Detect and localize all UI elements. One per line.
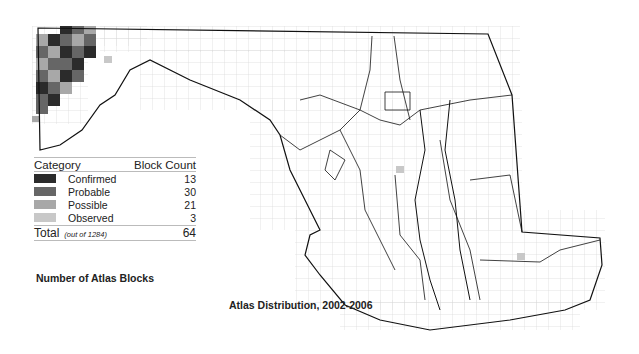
map-title: Atlas Distribution, 2002-2006 xyxy=(229,299,373,311)
legend-label: Probable xyxy=(68,186,184,198)
legend-count: 13 xyxy=(184,173,196,185)
legend: Category Block Count Confirmed 13 Probab… xyxy=(34,157,196,241)
legend-header-count: Block Count xyxy=(134,159,196,171)
legend-title: Number of Atlas Blocks xyxy=(36,272,154,284)
legend-count: 30 xyxy=(184,186,196,198)
legend-row-probable: Probable 30 xyxy=(34,185,196,198)
legend-header-category: Category xyxy=(34,159,81,171)
legend-total: Total (out of 1284) 64 xyxy=(34,225,196,241)
probable-swatch xyxy=(34,187,56,196)
legend-header: Category Block Count xyxy=(34,157,196,172)
total-count: 64 xyxy=(183,226,196,240)
legend-count: 21 xyxy=(184,199,196,211)
legend-row-confirmed: Confirmed 13 xyxy=(34,172,196,185)
possible-swatch xyxy=(34,200,56,209)
legend-row-observed: Observed 3 xyxy=(34,211,196,224)
observed-swatch xyxy=(34,213,56,222)
total-label: Total xyxy=(34,226,59,240)
confirmed-swatch xyxy=(34,174,56,183)
legend-label: Observed xyxy=(68,212,190,224)
legend-label: Confirmed xyxy=(68,173,184,185)
legend-count: 3 xyxy=(190,212,196,224)
legend-row-possible: Possible 21 xyxy=(34,198,196,211)
legend-label: Possible xyxy=(68,199,184,211)
total-note: (out of 1284) xyxy=(64,230,182,239)
